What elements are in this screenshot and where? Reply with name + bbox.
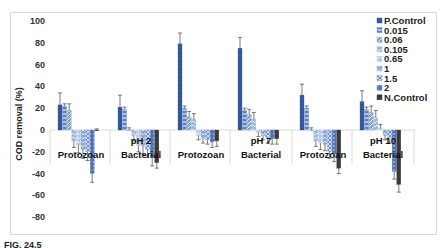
bar xyxy=(183,108,187,130)
legend-swatch xyxy=(377,47,382,52)
bar xyxy=(238,48,242,130)
bar xyxy=(365,109,369,130)
bar xyxy=(95,130,99,131)
y-tick-label: -20 xyxy=(32,147,45,157)
bar xyxy=(63,106,67,130)
y-tick-label: 40 xyxy=(35,81,45,91)
category-label: Bacterial xyxy=(241,149,281,160)
bar xyxy=(206,130,210,140)
y-tick-label: 0 xyxy=(40,125,45,135)
bar xyxy=(243,110,247,130)
bar xyxy=(76,130,80,145)
ph-group-label: pH 7 xyxy=(251,135,272,146)
category-label: Bacterial xyxy=(121,149,161,160)
category-label: Protozoan xyxy=(58,149,105,160)
bar xyxy=(58,105,62,130)
bar xyxy=(192,119,196,130)
legend-swatch xyxy=(377,18,382,23)
bar xyxy=(118,107,122,130)
bar xyxy=(178,44,182,130)
legend-swatch xyxy=(377,76,382,81)
bar xyxy=(374,117,378,130)
ph-group-label: pH 10 xyxy=(370,135,396,146)
bar xyxy=(72,130,76,141)
legend-swatch xyxy=(377,66,382,71)
legend-entry: N.Control xyxy=(384,92,427,103)
bar xyxy=(275,130,279,139)
legend: P.Control0.0150.060.1050.6511.52N.Contro… xyxy=(377,15,427,103)
bar xyxy=(67,110,71,130)
legend-swatch xyxy=(377,95,382,100)
y-tick-label: 100 xyxy=(30,16,45,26)
y-tick-label: -40 xyxy=(32,169,45,179)
bar xyxy=(309,130,313,131)
category-label: Bacterial xyxy=(363,149,403,160)
bar xyxy=(210,130,214,142)
bar xyxy=(378,128,382,130)
legend-swatch xyxy=(377,37,382,42)
y-tick-label: 20 xyxy=(35,103,45,113)
y-tick-label: -80 xyxy=(32,212,45,222)
category-label: Protozoan xyxy=(178,149,225,160)
bar xyxy=(300,95,304,130)
bar-series xyxy=(58,33,401,192)
bar xyxy=(256,130,260,132)
legend-swatch xyxy=(377,28,382,33)
bar xyxy=(314,130,318,141)
y-axis-label: COD removal (%) xyxy=(14,87,24,161)
ph-group-label: pH 2 xyxy=(131,135,152,146)
bar xyxy=(369,113,373,130)
legend-swatch xyxy=(377,85,382,90)
bar-chart: 100806040200-20-40-60-80 COD removal (%)… xyxy=(0,0,443,248)
bar xyxy=(123,109,127,130)
figure-caption: FIG. 24.5 xyxy=(4,238,42,248)
category-label: Protozoan xyxy=(300,149,347,160)
bar xyxy=(305,108,309,130)
bar xyxy=(215,130,219,141)
bar xyxy=(196,130,200,135)
bar xyxy=(323,130,327,144)
bar xyxy=(318,130,322,143)
y-axis: 100806040200-20-40-60-80 xyxy=(30,16,45,222)
bar xyxy=(252,119,256,130)
y-tick-label: -60 xyxy=(32,190,45,200)
legend-swatch xyxy=(377,56,382,61)
category-label-band xyxy=(50,130,415,164)
bar xyxy=(360,102,364,130)
y-tick-label: 60 xyxy=(35,60,45,70)
bar xyxy=(127,130,131,131)
bar xyxy=(81,130,85,150)
bar xyxy=(187,117,191,130)
bar xyxy=(201,130,205,139)
y-tick-label: 80 xyxy=(35,38,45,48)
bar xyxy=(247,115,251,130)
